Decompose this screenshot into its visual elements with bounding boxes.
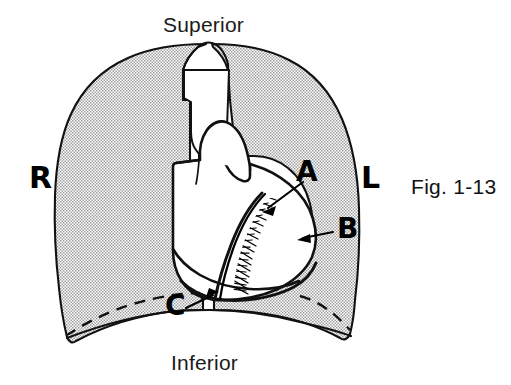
label-left-side: L (361, 163, 380, 193)
label-right-side: R (29, 163, 52, 193)
figure-container: Superior Inferior R L A B C Fig. 1-13 (0, 0, 511, 385)
callout-label-c: C (165, 292, 186, 320)
label-superior: Superior (163, 14, 244, 35)
label-inferior: Inferior (171, 352, 238, 373)
callout-label-a: A (296, 158, 318, 186)
callout-label-b: B (337, 215, 358, 243)
figure-caption: Fig. 1-13 (411, 176, 497, 197)
